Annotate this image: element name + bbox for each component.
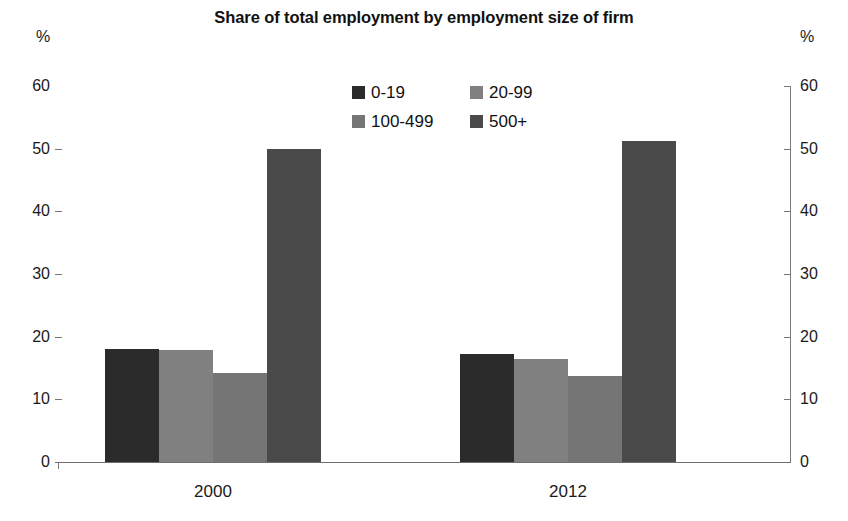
- x-axis-label-2000: 2000: [133, 482, 293, 502]
- y-tick-label-left-10: 10: [6, 390, 50, 408]
- y-tick-label-left-40: 40: [6, 202, 50, 220]
- x-axis-baseline: [56, 462, 791, 463]
- y-tick-label-right-30: 30: [800, 265, 840, 283]
- y-tick-label-right-20: 20: [800, 328, 840, 346]
- y-tick-label-right-0: 0: [800, 453, 840, 471]
- y-axis-unit-right: %: [800, 28, 814, 46]
- bar-group-2012: [460, 86, 676, 462]
- x-axis-label-2012: 2012: [488, 482, 648, 502]
- bar-2012-100-499[interactable]: [568, 376, 622, 462]
- y-axis-unit-left: %: [36, 28, 50, 46]
- y-tick-label-left-50: 50: [6, 140, 50, 158]
- y-tick-label-right-40: 40: [800, 202, 840, 220]
- y-tick-mark-left-20: [55, 337, 62, 338]
- bar-2012-20-99[interactable]: [514, 359, 568, 462]
- bar-2000-0-19[interactable]: [105, 349, 159, 462]
- y-tick-label-left-30: 30: [6, 265, 50, 283]
- bar-2012-500-[interactable]: [622, 141, 676, 462]
- origin-tick-mark: [58, 462, 59, 469]
- y-tick-mark-left-40: [55, 211, 62, 212]
- bar-2000-20-99[interactable]: [159, 350, 213, 462]
- right-axis-spine: [790, 86, 791, 463]
- y-tick-label-right-60: 60: [800, 77, 840, 95]
- y-tick-label-left-60: 60: [6, 77, 50, 95]
- y-tick-mark-left-10: [55, 399, 62, 400]
- y-tick-mark-left-30: [55, 274, 62, 275]
- y-tick-label-left-0: 0: [6, 453, 50, 471]
- y-tick-mark-left-50: [55, 149, 62, 150]
- y-tick-label-left-20: 20: [6, 328, 50, 346]
- chart-title: Share of total employment by employment …: [0, 8, 848, 27]
- y-tick-label-right-10: 10: [800, 390, 840, 408]
- bar-group-2000: [105, 86, 321, 462]
- bar-2000-500-[interactable]: [267, 149, 321, 462]
- bar-2012-0-19[interactable]: [460, 354, 514, 462]
- bar-2000-100-499[interactable]: [213, 373, 267, 462]
- plot-area: [70, 86, 778, 462]
- chart-container: Share of total employment by employment …: [0, 0, 848, 521]
- y-tick-label-right-50: 50: [800, 140, 840, 158]
